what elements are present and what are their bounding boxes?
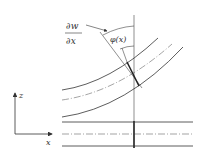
- dw-dx-leader-arrow: [86, 25, 107, 31]
- z-axis-label: z: [18, 91, 24, 100]
- dw-dx-angle-arc: [103, 26, 134, 35]
- dw-label: ∂w: [66, 21, 79, 31]
- rotated-cross-section: [127, 62, 139, 86]
- x-axis-label: x: [46, 138, 51, 147]
- dx-label: ∂x: [66, 36, 76, 46]
- beam-diagram: z x ∂w ∂x φ(x): [0, 0, 202, 156]
- phi-label: φ(x): [110, 35, 126, 44]
- cross-section-line: [122, 48, 127, 62]
- deformed-beam-axis: [62, 44, 172, 100]
- deformed-beam-bottom: [62, 47, 183, 117]
